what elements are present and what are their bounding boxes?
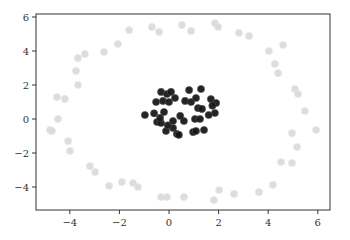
data-point: [164, 122, 171, 129]
data-point: [74, 55, 81, 62]
scatter-chart: −4−20246 −4−20246: [0, 0, 350, 240]
data-point: [48, 127, 55, 134]
y-tick-label: −4: [14, 182, 29, 193]
data-point: [200, 126, 207, 133]
data-point: [105, 182, 112, 189]
data-point: [197, 85, 204, 92]
data-point: [81, 50, 88, 57]
data-point: [65, 138, 72, 145]
data-point: [198, 105, 205, 112]
data-point: [230, 190, 237, 197]
data-point: [66, 147, 73, 154]
data-point: [313, 126, 320, 133]
data-point: [148, 23, 155, 30]
data-point: [280, 41, 287, 48]
data-point: [301, 107, 308, 114]
data-point: [265, 47, 272, 54]
data-point: [86, 163, 93, 170]
data-point: [180, 193, 187, 200]
data-point: [177, 112, 184, 119]
data-point: [92, 168, 99, 175]
data-point: [196, 115, 203, 122]
data-point: [163, 193, 170, 200]
data-point: [192, 94, 199, 101]
data-point: [246, 32, 253, 39]
data-point: [171, 94, 178, 101]
data-point: [209, 102, 216, 109]
data-point: [288, 159, 295, 166]
y-tick-label: −2: [14, 148, 29, 159]
data-point: [54, 115, 61, 122]
data-point: [215, 23, 222, 30]
y-tick-label: 4: [23, 46, 29, 57]
y-tick-label: 6: [23, 12, 29, 23]
data-point: [293, 143, 300, 150]
data-point: [175, 131, 182, 138]
data-point: [178, 21, 185, 28]
data-point: [74, 81, 81, 88]
data-point: [271, 60, 278, 67]
data-point: [156, 28, 163, 35]
data-point: [118, 178, 125, 185]
x-tick-label: 6: [315, 217, 321, 228]
data-point: [235, 29, 242, 36]
data-point: [157, 114, 164, 121]
y-tick-label: 2: [23, 80, 29, 91]
data-point: [205, 111, 212, 118]
data-point: [114, 40, 121, 47]
data-point: [100, 48, 107, 55]
data-point: [134, 183, 141, 190]
data-point: [141, 111, 148, 118]
x-tick-label: −4: [62, 217, 77, 228]
y-tick-label: 0: [23, 114, 29, 125]
x-tick-label: −2: [112, 217, 127, 228]
data-point: [288, 130, 295, 137]
x-axis: −4−20246: [62, 210, 321, 228]
data-point: [269, 181, 276, 188]
data-point: [186, 87, 193, 94]
data-point: [53, 93, 60, 100]
data-point: [61, 95, 68, 102]
data-point: [188, 27, 195, 34]
y-axis: −4−20246: [14, 12, 36, 193]
data-point: [275, 70, 282, 77]
outer-ring-points: [46, 20, 319, 204]
data-point: [216, 186, 223, 193]
x-tick-label: 2: [215, 217, 221, 228]
data-point: [210, 197, 217, 204]
x-tick-label: 4: [265, 217, 271, 228]
data-point: [192, 127, 199, 134]
inner-cluster-points: [141, 85, 219, 138]
data-point: [278, 158, 285, 165]
data-point: [153, 98, 160, 105]
data-point: [72, 67, 79, 74]
data-point: [255, 189, 262, 196]
data-point: [294, 90, 301, 97]
data-point: [126, 27, 133, 34]
x-tick-label: 0: [166, 217, 172, 228]
data-point: [151, 110, 158, 117]
